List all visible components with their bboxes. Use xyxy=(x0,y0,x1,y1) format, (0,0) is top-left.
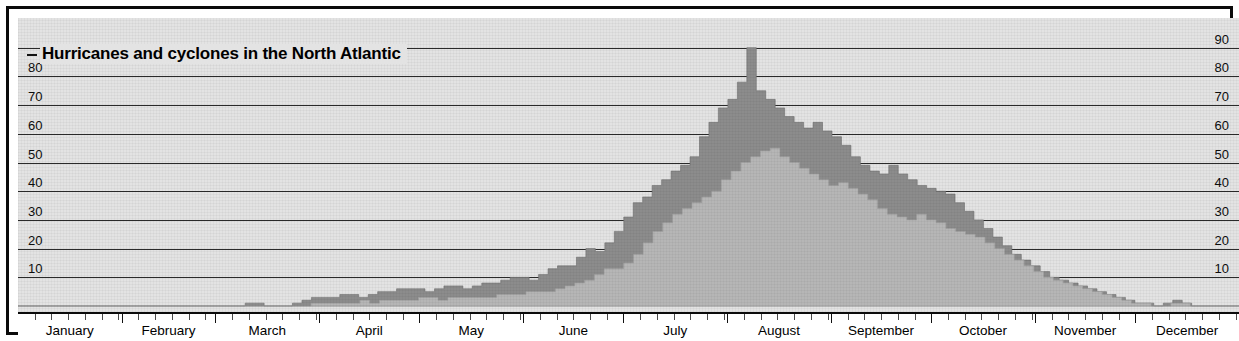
x-tick-minor xyxy=(189,314,190,320)
x-tick-minor xyxy=(1015,314,1016,320)
month-label-april: April xyxy=(356,323,383,338)
x-tick-minor xyxy=(794,314,795,320)
x-tick-minor xyxy=(557,314,558,320)
x-tick-minor xyxy=(336,314,337,320)
x-tick-minor xyxy=(998,314,999,320)
x-tick-month-boundary xyxy=(215,314,216,323)
y-label-right-30: 30 xyxy=(1215,205,1229,218)
x-tick-minor xyxy=(761,314,762,320)
x-tick-minor xyxy=(35,314,36,320)
x-tick-minor xyxy=(386,314,387,320)
x-tick-minor xyxy=(486,314,487,320)
x-tick-minor xyxy=(1169,314,1170,320)
x-tick-minor xyxy=(118,314,119,320)
x-tick-minor xyxy=(1102,314,1103,320)
x-tick-minor xyxy=(1068,314,1069,320)
y-label-right-60: 60 xyxy=(1215,119,1229,132)
month-label-march: March xyxy=(248,323,286,338)
x-tick-minor xyxy=(85,314,86,320)
x-tick-minor xyxy=(1236,314,1237,320)
x-tick-month-boundary xyxy=(122,314,123,323)
x-tick-minor xyxy=(607,314,608,320)
x-tick-month-boundary xyxy=(319,314,320,323)
chart-screenshot: 8070605040302010 908070605040302010 Hurr… xyxy=(0,0,1239,341)
x-tick-minor xyxy=(1085,314,1086,320)
x-tick-minor xyxy=(915,314,916,320)
x-tick-minor xyxy=(51,314,52,320)
x-tick-minor xyxy=(881,314,882,320)
chart-frame: 8070605040302010 908070605040302010 Hurr… xyxy=(6,6,1233,335)
x-tick-minor xyxy=(898,314,899,320)
x-tick-minor xyxy=(674,314,675,320)
x-tick-minor xyxy=(707,314,708,320)
y-label-left-70: 70 xyxy=(28,90,42,103)
x-tick-minor xyxy=(138,314,139,320)
x-tick-minor xyxy=(68,314,69,320)
x-tick-minor xyxy=(520,314,521,320)
month-label-august: August xyxy=(758,323,800,338)
month-label-january: January xyxy=(46,323,94,338)
x-tick-minor xyxy=(369,314,370,320)
x-tick-minor xyxy=(299,314,300,320)
y-label-right-90: 90 xyxy=(1215,33,1229,46)
y-label-right-80: 80 xyxy=(1215,61,1229,74)
x-tick-minor xyxy=(316,314,317,320)
x-tick-month-boundary xyxy=(727,314,728,323)
chart-title: Hurricanes and cyclones in the North Atl… xyxy=(40,44,407,64)
y-label-left-40: 40 xyxy=(28,176,42,189)
month-label-september: September xyxy=(848,323,914,338)
x-tick-minor xyxy=(155,314,156,320)
x-tick-minor xyxy=(403,314,404,320)
x-tick-minor xyxy=(232,314,233,320)
x-tick-minor xyxy=(640,314,641,320)
y-label-left-50: 50 xyxy=(28,148,42,161)
x-tick-minor xyxy=(828,314,829,320)
y-label-right-50: 50 xyxy=(1215,148,1229,161)
x-tick-minor xyxy=(811,314,812,320)
x-tick-minor xyxy=(948,314,949,320)
x-tick-minor xyxy=(590,314,591,320)
x-tick-minor xyxy=(1185,314,1186,320)
month-label-july: July xyxy=(663,323,687,338)
month-label-may: May xyxy=(459,323,485,338)
x-tick-month-boundary xyxy=(523,314,524,323)
y-label-left-30: 30 xyxy=(28,205,42,218)
x-tick-minor xyxy=(657,314,658,320)
month-label-october: October xyxy=(959,323,1007,338)
x-tick-minor xyxy=(1052,314,1053,320)
x-tick-month-boundary xyxy=(1135,314,1136,323)
x-tick-minor xyxy=(981,314,982,320)
x-tick-minor xyxy=(744,314,745,320)
x-tick-minor xyxy=(864,314,865,320)
x-tick-minor xyxy=(282,314,283,320)
x-tick-minor xyxy=(102,314,103,320)
x-tick-minor xyxy=(540,314,541,320)
x-tick-minor xyxy=(690,314,691,320)
x-tick-minor xyxy=(724,314,725,320)
y-label-right-20: 20 xyxy=(1215,234,1229,247)
x-tick-month-boundary xyxy=(931,314,932,323)
x-tick-minor xyxy=(436,314,437,320)
x-tick-minor xyxy=(777,314,778,320)
y-label-right-10: 10 xyxy=(1215,262,1229,275)
x-tick-month-boundary xyxy=(1035,314,1036,323)
x-tick-minor xyxy=(1202,314,1203,320)
x-tick-minor xyxy=(249,314,250,320)
x-tick-minor xyxy=(1219,314,1220,320)
x-tick-month-boundary xyxy=(831,314,832,323)
x-tick-minor xyxy=(172,314,173,320)
x-tick-minor xyxy=(1032,314,1033,320)
y-label-right-70: 70 xyxy=(1215,90,1229,103)
x-tick-minor xyxy=(453,314,454,320)
y-label-left-20: 20 xyxy=(28,234,42,247)
month-label-june: June xyxy=(559,323,588,338)
x-tick-minor xyxy=(353,314,354,320)
x-tick-minor xyxy=(470,314,471,320)
x-tick-minor xyxy=(205,314,206,320)
x-tick-month-boundary xyxy=(623,314,624,323)
x-tick-minor xyxy=(503,314,504,320)
y-label-right-40: 40 xyxy=(1215,176,1229,189)
x-axis-ticks xyxy=(18,314,1239,323)
month-label-february: February xyxy=(142,323,196,338)
y-label-left-60: 60 xyxy=(28,119,42,132)
